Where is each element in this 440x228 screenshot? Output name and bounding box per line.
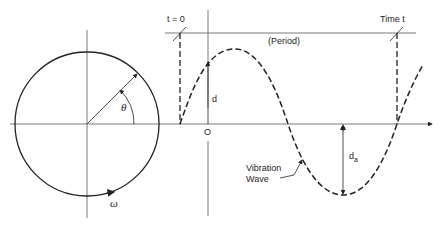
d-label: d [212,95,217,104]
vibration-wave [180,49,423,195]
vibration-label-line2: Wave [246,175,269,184]
origin-label: O [204,128,211,137]
theta-label: θ [121,102,126,113]
diagram-canvas [0,0,440,228]
radius-vector [87,74,137,124]
da-label: da [349,152,358,163]
vibration-diagram: t = 0 Time t (Period) d O da θ ω Vibrati… [0,0,440,228]
omega-label: ω [110,198,118,209]
time-t-label: Time t [380,15,405,24]
t0-label: t = 0 [167,15,185,24]
vibration-label-line1: Vibration [246,164,281,173]
da-arrow-top-icon [340,124,346,130]
period-label: (Period) [268,37,300,46]
vibration-leader [280,160,302,178]
omega-arrow-icon [107,192,114,193]
